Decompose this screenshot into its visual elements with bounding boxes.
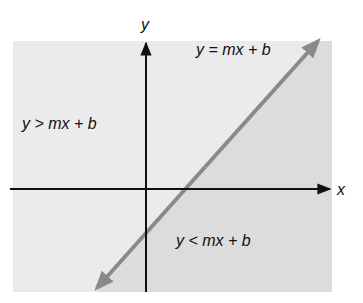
below-region-label: y < mx + b	[175, 232, 251, 249]
line-equation-label: y = mx + b	[195, 41, 271, 58]
inequality-diagram: y x y = mx + b y > mx + b y < mx + b	[0, 0, 363, 303]
above-region-label: y > mx + b	[21, 115, 97, 132]
x-axis-label: x	[336, 181, 346, 198]
y-axis-label: y	[140, 16, 150, 33]
